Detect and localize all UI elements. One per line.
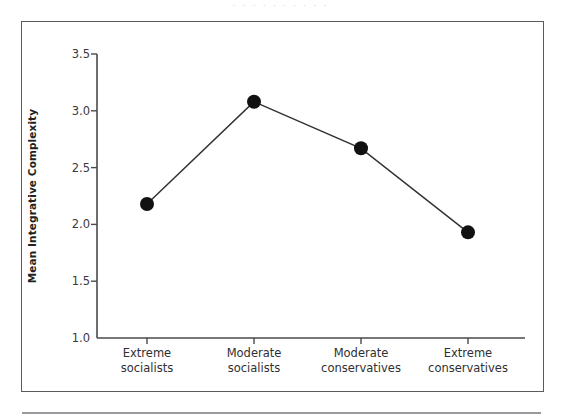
x-axis-tick-label-line1: Moderate (227, 346, 282, 360)
y-axis-tick-label: 2.5 (56, 161, 90, 175)
data-point-marker (140, 197, 154, 211)
y-axis-tick-label: 1.5 (56, 274, 90, 288)
data-markers (140, 95, 475, 240)
x-axis-tick-label: Extremeconservatives (393, 346, 543, 375)
y-axis-tick-label: 2.0 (56, 217, 90, 231)
axis-lines (97, 54, 525, 338)
x-axis-tick-label-line1: Extreme (444, 346, 492, 360)
y-axis-tick-label: 3.5 (56, 47, 90, 61)
data-point-marker (461, 225, 475, 239)
data-point-marker (247, 95, 261, 109)
y-axis-tick-label: 1.0 (56, 331, 90, 345)
footer-rule (22, 412, 541, 414)
data-line (147, 102, 468, 233)
x-axis-tick-labels: ExtremesocialistsModeratesocialistsModer… (0, 346, 561, 392)
y-axis-ticks (91, 54, 97, 281)
x-axis-tick-label-line1: Extreme (123, 346, 171, 360)
x-axis-tick-label-line2: conservatives (393, 361, 543, 376)
x-axis-tick-label-line1: Moderate (334, 346, 389, 360)
chart-plot-area: 1.01.52.02.53.03.5 Mean Integrative Comp… (0, 0, 561, 418)
data-point-marker (354, 141, 368, 155)
x-axis-ticks (147, 338, 468, 344)
y-axis-title-text: Mean Integrative Complexity (26, 109, 38, 283)
y-axis-title: Mean Integrative Complexity (24, 52, 40, 340)
y-axis-tick-label: 3.0 (56, 104, 90, 118)
